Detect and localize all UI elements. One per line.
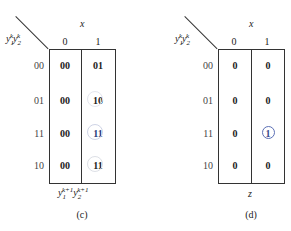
row-header-00: 00 bbox=[189, 60, 213, 71]
highlight-circle bbox=[262, 126, 275, 139]
column-divider bbox=[81, 49, 82, 184]
column-header-1: 1 bbox=[257, 36, 277, 47]
highlight-circle bbox=[87, 124, 103, 140]
highlight-circle bbox=[87, 156, 103, 172]
figure-caption: (d) bbox=[236, 209, 266, 220]
figure-caption: (c) bbox=[67, 209, 97, 220]
cell-00-1: 0 bbox=[253, 60, 283, 71]
cell-11-0: 0 bbox=[220, 128, 250, 139]
column-divider bbox=[251, 49, 252, 184]
cell-01-0: 0 bbox=[220, 95, 250, 106]
cell-00-0: 00 bbox=[50, 60, 80, 71]
column-header-0: 0 bbox=[55, 36, 75, 47]
cell-01-0: 00 bbox=[50, 95, 80, 106]
cell-10-1: 0 bbox=[253, 160, 283, 171]
highlight-circle bbox=[87, 91, 103, 107]
output-label: y1k+1y2k+1 bbox=[58, 186, 89, 201]
cell-11-0: 00 bbox=[50, 128, 80, 139]
column-header-0: 0 bbox=[224, 36, 244, 47]
output-label: z bbox=[248, 188, 252, 199]
cell-10-0: 0 bbox=[220, 160, 250, 171]
column-variable-label: x bbox=[80, 18, 84, 29]
row-variable-label: y1ky2k bbox=[175, 32, 189, 47]
row-header-00: 00 bbox=[20, 60, 44, 71]
row-variable-label: y1ky2k bbox=[6, 32, 20, 47]
cell-00-1: 01 bbox=[83, 60, 113, 71]
row-header-01: 01 bbox=[189, 95, 213, 106]
cell-01-1: 0 bbox=[253, 95, 283, 106]
row-header-10: 10 bbox=[189, 160, 213, 171]
row-header-01: 01 bbox=[20, 95, 44, 106]
column-variable-label: x bbox=[249, 18, 253, 29]
row-header-11: 11 bbox=[20, 128, 44, 139]
cell-00-0: 0 bbox=[220, 60, 250, 71]
cell-10-0: 00 bbox=[50, 160, 80, 171]
row-header-10: 10 bbox=[20, 160, 44, 171]
row-header-11: 11 bbox=[189, 128, 213, 139]
column-header-1: 1 bbox=[88, 36, 108, 47]
